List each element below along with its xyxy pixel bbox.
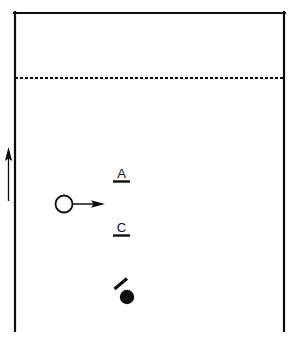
figure-container: A C — [0, 0, 299, 338]
label-a-group: A — [113, 166, 130, 182]
diagram-canvas: A C — [0, 0, 299, 338]
filled-circle-marker — [120, 290, 134, 304]
label-c-text: C — [117, 220, 126, 235]
margin-up-arrow — [5, 147, 12, 201]
label-c-group: C — [113, 220, 130, 236]
enclosure-boundary — [14, 12, 285, 331]
open-circle-marker — [56, 196, 73, 213]
motion-right-arrow — [73, 200, 105, 208]
label-a-text: A — [117, 166, 126, 181]
diagonal-tick-mark — [115, 279, 128, 290]
